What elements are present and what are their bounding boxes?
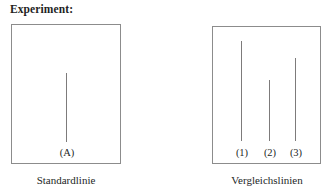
line-label-1: (1)	[236, 148, 248, 159]
standard-line-panel: (A)	[11, 24, 121, 164]
standard-panel-caption: Standardlinie	[37, 175, 96, 186]
comparison-line-2	[269, 80, 270, 141]
comparison-line-3	[295, 58, 296, 141]
figure-heading: Experiment:	[10, 3, 73, 15]
figure-root: Experiment: (A) Standardlinie (1) (2) (3…	[0, 0, 334, 194]
standard-line-A	[66, 73, 67, 142]
comparison-panel-caption: Vergleichslinien	[231, 175, 302, 186]
line-label-A: (A)	[60, 148, 75, 159]
line-label-2: (2)	[264, 148, 276, 159]
line-label-3: (3)	[290, 148, 302, 159]
comparison-line-1	[241, 41, 242, 141]
comparison-lines-panel: (1) (2) (3)	[212, 26, 321, 164]
